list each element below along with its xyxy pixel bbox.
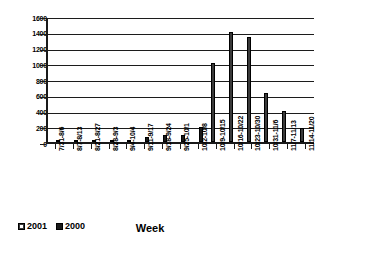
category-slot [119, 18, 137, 142]
x-tick-label: 9/25-10/1 [183, 123, 191, 151]
x-tick-mark [305, 144, 306, 149]
x-tick-mark [109, 144, 110, 149]
x-tick-mark [91, 144, 92, 149]
x-tick-label: 10/9-10/15 [219, 120, 227, 151]
bar-chart: 16001400120010008006004002000 7/31-8/68/… [0, 0, 365, 256]
x-tick-label: 11/7-11/13 [290, 120, 298, 151]
x-tick-mark [73, 144, 74, 149]
bar [229, 32, 233, 142]
bar [282, 111, 286, 142]
category-slot [102, 18, 120, 142]
x-tick-mark [162, 144, 163, 149]
x-tick-mark [180, 144, 181, 149]
legend-item[interactable]: 2000 [56, 222, 85, 231]
y-tick-mark [40, 144, 46, 145]
x-tick-label: 11/14-11/20 [308, 117, 316, 151]
category-slot [48, 18, 66, 142]
x-tick-label: 7/31-8/6 [58, 127, 66, 151]
bar [211, 63, 215, 142]
legend-label: 2000 [65, 222, 85, 231]
x-tick-mark [216, 144, 217, 149]
x-tick-mark [234, 144, 235, 149]
legend-label: 2001 [27, 222, 47, 231]
x-tick-label: 10/31-11/6 [272, 120, 280, 151]
x-tick-mark [269, 144, 270, 149]
legend-swatch-2001-icon [18, 223, 25, 230]
x-tick-mark [287, 144, 288, 149]
x-tick-label: 8/28-9/3 [112, 127, 120, 151]
x-tick-mark [144, 144, 145, 149]
x-tick-mark [198, 144, 199, 149]
x-tick-mark [251, 144, 252, 149]
x-tick-mark [126, 144, 127, 149]
category-slot [66, 18, 84, 142]
x-tick-label: 8/7-8/13 [76, 127, 84, 151]
x-tick-label: 10/16-10/22 [237, 116, 245, 151]
legend-swatch-2000-icon [56, 223, 63, 230]
bar [300, 128, 304, 142]
x-tick-label: 9/4-10/4 [129, 127, 137, 151]
bar [247, 37, 251, 142]
x-tick-label: 10/2-10/8 [201, 123, 209, 151]
x-tick-label: 10/23-10/30 [254, 116, 262, 151]
chart-legend: 20012000 [18, 222, 85, 231]
legend-item[interactable]: 2001 [18, 222, 47, 231]
bar [264, 93, 268, 142]
x-tick-label: 9/18-9/24 [165, 123, 173, 151]
x-tick-label: 8/21-8/27 [94, 123, 102, 151]
x-tick-label: 9/11-9/17 [147, 124, 155, 151]
x-tick-mark [55, 144, 56, 149]
